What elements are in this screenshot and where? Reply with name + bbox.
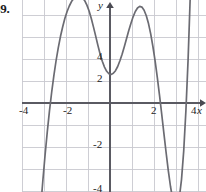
- xtick-label-neg4: -4: [19, 104, 28, 116]
- figure-root: 59.: [0, 0, 206, 192]
- problem-number: 59.: [0, 1, 10, 17]
- y-axis: [106, 2, 114, 192]
- ytick-label-neg2: -2: [93, 138, 102, 150]
- plot-area: -4 -2 2 4 4 2 -2 -4 y x: [22, 0, 206, 192]
- graph-svg: [22, 0, 206, 192]
- xtick-label-neg2: -2: [63, 104, 72, 116]
- x-axis-label: x: [197, 104, 202, 116]
- ytick-label-2: 2: [97, 72, 103, 84]
- grid-lines: [22, 0, 206, 192]
- ytick-label-4: 4: [97, 50, 103, 62]
- y-axis-arrow: [106, 2, 114, 8]
- xtick-label-2: 2: [151, 104, 157, 116]
- xtick-label-4: 4: [191, 104, 197, 116]
- ytick-label-neg4: -4: [93, 182, 102, 192]
- y-axis-label: y: [98, 0, 103, 11]
